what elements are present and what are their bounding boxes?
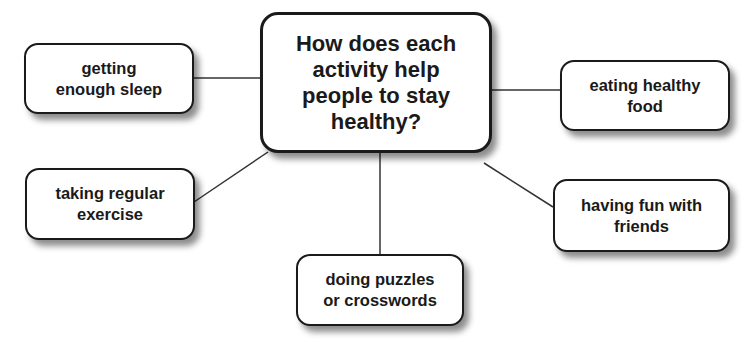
node-text: exercise: [55, 204, 164, 225]
connector-exercise: [194, 152, 268, 202]
central-question-line: activity help: [296, 57, 456, 83]
central-question-line: people to stay: [296, 83, 456, 109]
node-text: getting: [56, 58, 162, 79]
node-text: enough sleep: [56, 79, 162, 100]
central-question-line: How does each: [296, 31, 456, 57]
node-exercise: taking regular exercise: [25, 168, 195, 240]
node-food: eating healthy food: [560, 60, 730, 131]
node-text: friends: [581, 216, 702, 237]
node-text: or crosswords: [323, 290, 437, 311]
node-text: taking regular: [55, 183, 164, 204]
central-question-box: How does each activity help people to st…: [260, 12, 492, 153]
node-text: eating healthy: [590, 75, 701, 96]
node-friends: having fun with friends: [553, 179, 730, 252]
node-text: food: [590, 96, 701, 117]
node-text: having fun with: [581, 195, 702, 216]
node-text: doing puzzles: [323, 269, 437, 290]
central-question-line: healthy?: [296, 109, 456, 135]
connector-friends: [484, 163, 553, 207]
node-puzzles: doing puzzles or crosswords: [296, 254, 464, 326]
node-sleep: getting enough sleep: [24, 43, 194, 114]
